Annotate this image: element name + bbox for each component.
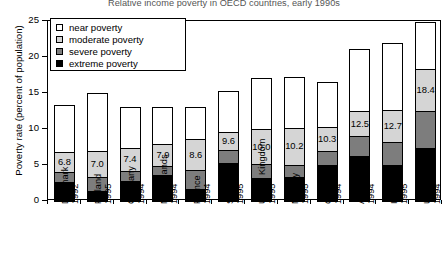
bar-value-label: 18.4: [415, 84, 436, 95]
x-label-year: 1995: [399, 118, 409, 204]
x-label-year: 1994: [432, 118, 442, 204]
x-label-year: 1992: [71, 118, 81, 204]
y-tick-label: 20: [13, 51, 39, 61]
legend-swatch-icon: [56, 60, 63, 67]
x-label-canada: Canada1994: [323, 118, 343, 204]
y-tick-label: 5: [13, 159, 39, 169]
x-label-country: Italy: [389, 118, 399, 204]
x-label-year: 1994: [202, 118, 212, 204]
x-label-country: Denmark: [60, 118, 70, 204]
x-label-country: Australia: [356, 118, 366, 204]
x-label-country: Canada: [323, 118, 333, 204]
bar-segment-near: [349, 49, 370, 112]
x-label-year: 1994: [169, 118, 179, 204]
x-label-year: 1994: [366, 118, 376, 204]
legend-label: severe poverty: [69, 46, 132, 57]
legend-swatch-icon: [56, 48, 63, 55]
bar-segment-near: [382, 43, 403, 110]
x-label-year: 1994: [136, 118, 146, 204]
legend-item: extreme poverty: [56, 57, 185, 69]
x-label-year: 1995: [235, 118, 245, 204]
y-tick-label: 25: [13, 15, 39, 25]
chart-legend: near povertymoderate povertysevere pover…: [50, 18, 186, 71]
legend-label: extreme poverty: [69, 58, 138, 69]
x-label-sweden: Sweden1995: [225, 118, 245, 204]
x-label-country: United Kingdom: [257, 118, 267, 204]
x-label-year: 1995: [103, 118, 113, 204]
chart-title: Relative income poverty in OECD countrie…: [0, 0, 448, 8]
x-label-finland: Finland1995: [93, 118, 113, 204]
chart-figure: Relative income poverty in OECD countrie…: [0, 0, 448, 272]
x-label-norway: Norway1995: [290, 118, 310, 204]
y-tick-label: 15: [13, 87, 39, 97]
x-label-year: 1995: [300, 118, 310, 204]
y-tick-label: 10: [13, 123, 39, 133]
x-label-united-states: United States1994: [422, 118, 442, 204]
x-label-country: Germany: [126, 118, 136, 204]
x-label-country: Finland: [93, 118, 103, 204]
x-label-country: Netherlands: [159, 118, 169, 204]
x-label-year: 1995: [268, 118, 278, 204]
legend-label: moderate poverty: [69, 34, 144, 45]
x-label-netherlands: Netherlands1994: [159, 118, 179, 204]
x-label-denmark: Denmark1992: [60, 118, 80, 204]
y-tick-label: 0: [13, 195, 39, 205]
x-tick-mark: [47, 200, 48, 204]
legend-swatch-icon: [56, 24, 63, 31]
bar-segment-near: [415, 22, 436, 70]
x-label-united-kingdom: United Kingdom1995: [257, 118, 277, 204]
legend-item: moderate poverty: [56, 33, 185, 45]
legend-swatch-icon: [56, 36, 63, 43]
x-label-france: France1994: [192, 118, 212, 204]
x-label-italy: Italy1995: [389, 118, 409, 204]
legend-item: severe poverty: [56, 45, 185, 57]
x-label-country: Norway: [290, 118, 300, 204]
legend-item: near poverty: [56, 21, 185, 33]
x-label-year: 1994: [333, 118, 343, 204]
x-label-australia: Australia1994: [356, 118, 376, 204]
x-label-country: Sweden: [225, 118, 235, 204]
x-label-country: France: [192, 118, 202, 204]
x-label-country: United States: [422, 118, 432, 204]
legend-label: near poverty: [69, 22, 122, 33]
x-label-germany: Germany1994: [126, 118, 146, 204]
